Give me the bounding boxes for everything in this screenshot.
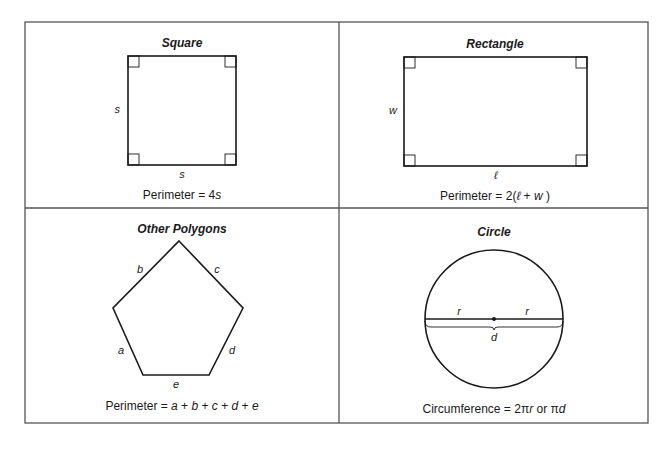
square-panel: Square s s Perimeter = 4s bbox=[115, 36, 237, 202]
perimeter-diagram: Square s s Perimeter = 4s Rectangle w ℓ … bbox=[0, 0, 671, 452]
right-angle-mark bbox=[404, 57, 415, 68]
pentagon-label-c: c bbox=[214, 263, 220, 275]
polygon-formula: Perimeter = a + b + c + d + e bbox=[105, 399, 259, 413]
rectangle-shape bbox=[404, 57, 587, 166]
pentagon-label-e: e bbox=[173, 378, 179, 390]
radius-label-left: r bbox=[457, 305, 462, 317]
rectangle-formula: Perimeter = 2(ℓ + w ) bbox=[440, 189, 550, 203]
pentagon-shape bbox=[113, 241, 243, 375]
pentagon-label-a: a bbox=[118, 344, 124, 356]
right-angle-mark bbox=[225, 154, 236, 165]
pentagon-label-b: b bbox=[137, 263, 143, 275]
pentagon-label-d: d bbox=[229, 344, 236, 356]
rectangle-title: Rectangle bbox=[466, 37, 524, 51]
polygon-title: Other Polygons bbox=[137, 222, 227, 236]
square-side-label-bottom: s bbox=[179, 168, 185, 180]
rectangle-side-label-bottom: ℓ bbox=[493, 169, 498, 181]
square-title: Square bbox=[162, 36, 203, 50]
diameter-brace bbox=[425, 321, 563, 330]
square-formula: Perimeter = 4s bbox=[143, 188, 221, 202]
circle-panel: Circle r r d Circumference = 2πr or πd bbox=[423, 225, 566, 416]
right-angle-mark bbox=[404, 155, 415, 166]
diameter-label: d bbox=[491, 331, 498, 343]
right-angle-mark bbox=[576, 155, 587, 166]
rectangle-side-label-left: w bbox=[389, 104, 398, 116]
right-angle-mark bbox=[576, 57, 587, 68]
rectangle-panel: Rectangle w ℓ Perimeter = 2(ℓ + w ) bbox=[389, 37, 587, 203]
circle-formula: Circumference = 2πr or πd bbox=[423, 402, 566, 416]
right-angle-mark bbox=[128, 154, 139, 165]
square-shape bbox=[128, 56, 236, 165]
right-angle-mark bbox=[225, 56, 236, 67]
right-angle-mark bbox=[128, 56, 139, 67]
center-point bbox=[492, 317, 496, 321]
outer-frame bbox=[25, 22, 648, 423]
circle-title: Circle bbox=[477, 225, 511, 239]
polygon-panel: Other Polygons b c a d e Perimeter = a +… bbox=[105, 222, 259, 413]
square-side-label-left: s bbox=[115, 103, 121, 115]
radius-label-right: r bbox=[525, 305, 530, 317]
